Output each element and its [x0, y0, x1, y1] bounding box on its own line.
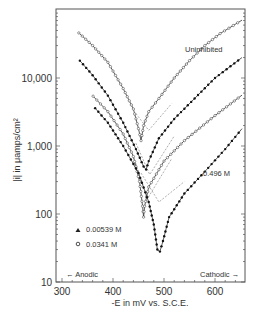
data-series [78, 20, 242, 253]
x-tick-label: 300 [54, 286, 71, 297]
annotation-0496m: 0.496 M [203, 169, 230, 178]
y-axis-title: |i| in μamps/cm² [12, 118, 22, 181]
y-axis-ticks: 101001,00010,000 [21, 13, 245, 287]
legend-label-00341: 0.0341 M [86, 240, 117, 249]
x-tick-label: 500 [156, 286, 173, 297]
annotation-cathodic: Cathodic → [200, 270, 239, 279]
open-circle-marker-icon [76, 242, 80, 246]
y-tick-label: 1,000 [27, 141, 52, 152]
y-tick-label: 10 [41, 277, 53, 288]
x-tick-label: 400 [105, 286, 122, 297]
polarization-chart: 101001,00010,000 300400500600 -E in mV v… [0, 0, 257, 320]
series-uninhibited [78, 20, 242, 142]
annotation-anodic: ← Anodic [66, 270, 98, 279]
annotation-uninhibited: Uninhibited [185, 45, 223, 54]
filled-triangle-marker-icon [76, 228, 81, 232]
x-axis-title: -E in mV vs. S.C.E. [111, 298, 188, 308]
legend-label-00539: 0.00539 M [86, 225, 121, 234]
y-tick-label: 10,000 [21, 73, 52, 84]
x-tick-label: 600 [207, 286, 224, 297]
y-tick-label: 100 [35, 209, 52, 220]
legend: 0.00539 M 0.0341 M [76, 225, 122, 249]
x-axis-ticks: 300400500600 [54, 278, 236, 297]
